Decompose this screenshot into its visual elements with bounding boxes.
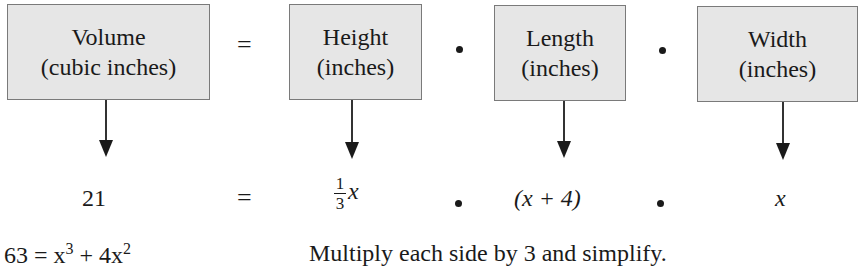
width-unit: (inches) bbox=[739, 54, 816, 84]
equals-sign-bottom: = bbox=[237, 183, 252, 213]
simplified-equation: 63 = x3 + 4x2 bbox=[4, 240, 131, 269]
times-dot-top-2 bbox=[659, 47, 666, 54]
volume-label: Volume bbox=[71, 22, 145, 52]
fraction-one-third: 1 3 bbox=[334, 175, 346, 212]
arrow-volume-shaft bbox=[105, 100, 107, 145]
width-box: Width (inches) bbox=[697, 6, 858, 102]
volume-box: Volume (cubic inches) bbox=[7, 4, 210, 100]
volume-unit: (cubic inches) bbox=[41, 52, 176, 82]
length-value: (x + 4) bbox=[514, 185, 581, 212]
height-unit: (inches) bbox=[317, 52, 394, 82]
equals-sign-top: = bbox=[237, 30, 252, 60]
times-dot-bottom-1 bbox=[455, 200, 462, 207]
arrow-down-icon bbox=[557, 141, 571, 158]
height-box: Height (inches) bbox=[289, 4, 422, 100]
volume-value: 21 bbox=[82, 185, 106, 212]
arrow-length-shaft bbox=[563, 101, 565, 146]
length-unit: (inches) bbox=[521, 53, 598, 83]
length-box: Length (inches) bbox=[494, 5, 626, 101]
height-label: Height bbox=[323, 22, 388, 52]
times-dot-bottom-2 bbox=[657, 200, 664, 207]
arrow-down-icon bbox=[776, 143, 790, 160]
length-label: Length bbox=[526, 23, 594, 53]
times-dot-top-1 bbox=[456, 46, 463, 53]
arrow-down-icon bbox=[345, 142, 359, 159]
width-value: x bbox=[775, 185, 786, 212]
height-value: 1 3 x bbox=[334, 175, 359, 212]
arrow-height-shaft bbox=[351, 100, 353, 147]
arrow-width-shaft bbox=[782, 102, 784, 149]
width-label: Width bbox=[748, 24, 807, 54]
arrow-down-icon bbox=[99, 140, 113, 157]
step-note: Multiply each side by 3 and simplify. bbox=[309, 240, 667, 267]
